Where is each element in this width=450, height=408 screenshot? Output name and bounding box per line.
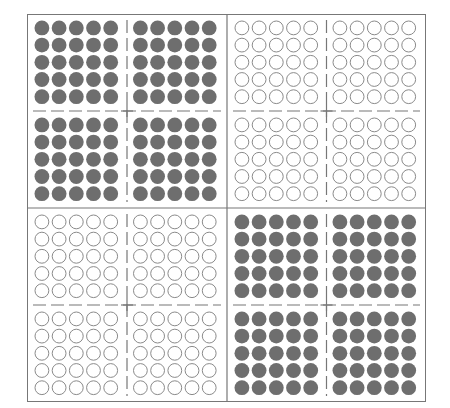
empty-dot (235, 135, 249, 149)
filled-dot (69, 55, 84, 70)
filled-dot (202, 38, 217, 53)
empty-dot (185, 381, 199, 395)
filled-dot (384, 249, 399, 264)
empty-dot (333, 38, 347, 52)
empty-dot (367, 135, 381, 149)
empty-dot (385, 135, 399, 149)
filled-dot (235, 249, 250, 264)
empty-dot (333, 73, 347, 87)
filled-dot (367, 215, 382, 230)
filled-dot (86, 72, 101, 87)
empty-dot (269, 90, 283, 104)
empty-dot (269, 152, 283, 166)
filled-dot (52, 38, 67, 53)
empty-dot (134, 249, 148, 263)
empty-dot (185, 267, 199, 281)
filled-dot (333, 363, 348, 378)
filled-dot (350, 215, 365, 230)
empty-dot (287, 187, 301, 201)
empty-dot (151, 329, 165, 343)
filled-dot (86, 118, 101, 133)
empty-dot (287, 55, 301, 69)
filled-dot (401, 312, 416, 327)
filled-dot (269, 363, 284, 378)
empty-dot (134, 284, 148, 298)
filled-dot (333, 232, 348, 247)
filled-dot (103, 118, 118, 133)
empty-dot (87, 267, 101, 281)
empty-dot (35, 215, 49, 229)
filled-dot (252, 363, 267, 378)
filled-dot (286, 215, 301, 230)
empty-dot (185, 364, 199, 378)
filled-dot (35, 89, 50, 104)
filled-dot (86, 38, 101, 53)
filled-dot (303, 266, 318, 281)
filled-dot (384, 346, 399, 361)
empty-dot (385, 152, 399, 166)
filled-dot (86, 21, 101, 36)
filled-dot (384, 232, 399, 247)
dot-grid-diagram (0, 0, 450, 408)
empty-dot (269, 118, 283, 132)
filled-dot (269, 249, 284, 264)
empty-dot (333, 118, 347, 132)
filled-dot (150, 152, 165, 167)
filled-dot (150, 21, 165, 36)
empty-dot (35, 381, 49, 395)
empty-dot (87, 284, 101, 298)
empty-dot (202, 381, 216, 395)
empty-dot (252, 55, 266, 69)
filled-dot (167, 186, 182, 201)
empty-dot (52, 249, 66, 263)
filled-dot (103, 152, 118, 167)
empty-dot (35, 267, 49, 281)
empty-dot (202, 364, 216, 378)
empty-dot (185, 312, 199, 326)
empty-dot (134, 381, 148, 395)
filled-dot (367, 329, 382, 344)
empty-dot (402, 118, 416, 132)
filled-dot (52, 169, 67, 184)
empty-dot (385, 187, 399, 201)
empty-dot (35, 284, 49, 298)
empty-dot (350, 170, 364, 184)
filled-dot (86, 169, 101, 184)
empty-dot (402, 152, 416, 166)
empty-dot (367, 21, 381, 35)
filled-dot (350, 329, 365, 344)
filled-dot (133, 72, 148, 87)
filled-dot (52, 55, 67, 70)
filled-dot (103, 135, 118, 150)
filled-dot (150, 118, 165, 133)
empty-dot (367, 118, 381, 132)
empty-dot (52, 215, 66, 229)
filled-dot (185, 152, 200, 167)
empty-dot (185, 284, 199, 298)
filled-dot (367, 380, 382, 395)
filled-dot (69, 152, 84, 167)
empty-dot (333, 90, 347, 104)
empty-dot (87, 312, 101, 326)
filled-dot (350, 312, 365, 327)
filled-dot (86, 55, 101, 70)
empty-dot (252, 73, 266, 87)
filled-dot (333, 249, 348, 264)
empty-dot (87, 329, 101, 343)
empty-dot (385, 21, 399, 35)
filled-dot (150, 38, 165, 53)
filled-dot (150, 72, 165, 87)
filled-dot (303, 232, 318, 247)
empty-dot (287, 21, 301, 35)
empty-dot (151, 381, 165, 395)
filled-dot (150, 55, 165, 70)
filled-dot (401, 215, 416, 230)
empty-dot (385, 90, 399, 104)
empty-dot (134, 346, 148, 360)
filled-dot (252, 266, 267, 281)
filled-dot (384, 266, 399, 281)
filled-dot (35, 135, 50, 150)
filled-dot (252, 312, 267, 327)
filled-dot (384, 363, 399, 378)
filled-dot (167, 89, 182, 104)
